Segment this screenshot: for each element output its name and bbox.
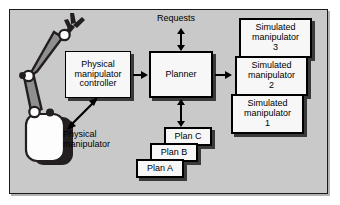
node-simulated-manipulator-1[interactable]: Simulated manipulator 1 [231,94,304,134]
sim2-line-1: Simulated [251,60,291,70]
sim3-line-3: 3 [273,42,278,52]
plan-b-label: Plan B [160,148,189,158]
node-label: Simulated manipulator 2 [247,61,296,90]
planner-planc-arrow-head-down [177,121,185,127]
controller-to-physical-manipulator-arrow [62,92,104,134]
controller-line-2: manipulator [74,69,121,79]
plan-a-label: Plan A [146,164,174,174]
node-simulated-manipulator-3[interactable]: Simulated manipulator 3 [239,18,312,58]
sim3-line-1: Simulated [255,22,295,32]
sim1-line-3: 1 [265,118,270,128]
controller-planner-arrow-head [141,71,148,79]
sim2-line-2: manipulator [248,70,295,80]
planner-planc-arrow-shaft [180,103,182,123]
node-simulated-manipulator-2[interactable]: Simulated manipulator 2 [235,56,308,96]
node-plan-a[interactable]: Plan A [136,159,184,178]
requests-label: Requests [157,14,195,24]
sim1-line-1: Simulated [247,98,287,108]
physical-manipulator-caption-line-2: manipulator [63,139,110,149]
requests-arrow-head-up [177,28,185,34]
diagram-figure: Physical manipulator controller Planner … [0,0,340,205]
physical-manipulator-caption-line-1: Physical [63,129,97,139]
planner-planc-arrow-head-up [177,99,185,105]
sim3-line-2: manipulator [252,32,299,42]
sim2-line-3: 2 [269,80,274,90]
controller-line-1: Physical [81,59,115,69]
plan-c-label: Plan C [173,132,202,142]
controller-line-3: controller [79,78,116,88]
node-label: Simulated manipulator 1 [243,99,292,128]
sim1-line-2: manipulator [244,108,291,118]
node-planner[interactable]: Planner [149,51,213,98]
planner-sim2-arrow-head [225,71,232,79]
node-label: Physical manipulator controller [73,60,122,89]
node-physical-manipulator-controller[interactable]: Physical manipulator controller [65,51,131,98]
requests-arrow-head-down [177,45,185,51]
node-label: Simulated manipulator 3 [251,23,300,52]
physical-manipulator-caption: Physical manipulator [63,130,110,150]
planner-label: Planner [164,70,197,80]
